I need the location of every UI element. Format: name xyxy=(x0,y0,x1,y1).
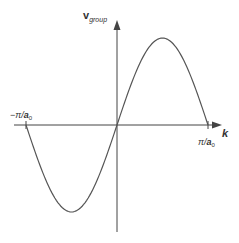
y-axis-label: vgroup xyxy=(83,10,107,23)
chart-canvas xyxy=(0,0,239,243)
tick-label-pos: π/a0 xyxy=(198,138,215,148)
tick-label-neg: −π/a0 xyxy=(10,111,32,121)
x-axis-label: k xyxy=(222,128,228,139)
y-axis-arrow-icon xyxy=(114,20,121,30)
x-axis-arrow-icon xyxy=(212,122,222,129)
